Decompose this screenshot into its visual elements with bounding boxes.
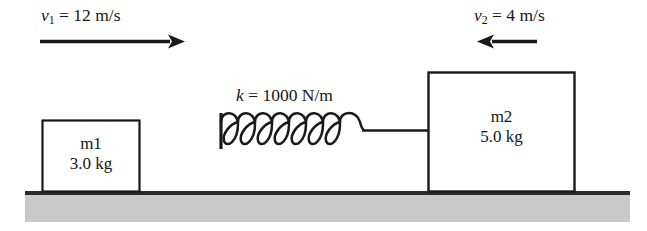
spring-loop-3 <box>255 113 272 144</box>
spring-constant-units: N/m <box>302 85 333 105</box>
spring-coils <box>221 113 364 144</box>
ground-fill <box>25 194 630 222</box>
velocity-2-equals: = <box>492 5 502 25</box>
physics-diagram-canvas: v1 = 12 m/s v2 = 4 m/s k = 1000 N/m m1 3… <box>0 0 647 231</box>
spring-constant-symbol: k <box>236 85 244 105</box>
block-1-symbol: m <box>80 134 93 153</box>
ground-surface <box>25 191 630 222</box>
velocity-arrow-right-head <box>168 35 185 49</box>
block-2-subscript: 2 <box>504 107 513 126</box>
velocity-arrow-left <box>477 35 537 49</box>
velocity-2-units: m/s <box>519 5 544 25</box>
velocity-2-label: v2 = 4 m/s <box>474 6 545 27</box>
velocity-1-symbol: v <box>41 5 49 25</box>
block-1-symbol-line: m1 <box>42 134 140 154</box>
velocity-2-value: 4 <box>506 5 515 25</box>
spring-assembly <box>221 113 429 149</box>
velocity-2-symbol: v <box>474 5 482 25</box>
spring-loop-6 <box>306 113 323 144</box>
spring-tail-arc <box>340 113 364 130</box>
spring-loop-2 <box>238 113 255 144</box>
velocity-arrow-left-head <box>477 35 494 49</box>
velocity-1-units: m/s <box>95 5 120 25</box>
spring-constant-label: k = 1000 N/m <box>236 86 333 105</box>
spring-constant-equals: = <box>248 85 258 105</box>
block-2-symbol-line: m2 <box>428 107 575 127</box>
velocity-1-subscript: 1 <box>49 13 55 27</box>
block-1-label: m1 3.0 kg <box>42 134 140 174</box>
block-2-mass: 5.0 kg <box>428 127 575 147</box>
spring-loop-7 <box>323 113 340 144</box>
spring-constant-value: 1000 <box>262 85 297 105</box>
velocity-2-subscript: 2 <box>482 13 488 27</box>
velocity-1-value: 12 <box>73 5 91 25</box>
spring-loop-4 <box>272 113 289 144</box>
spring-loop-1 <box>221 113 238 144</box>
block-2-label: m2 5.0 kg <box>428 107 575 147</box>
block-2-symbol: m <box>491 107 504 126</box>
velocity-1-label: v1 = 12 m/s <box>41 6 121 27</box>
block-1-subscript: 1 <box>93 134 102 153</box>
velocity-arrow-right <box>40 35 185 49</box>
spring-loop-5 <box>289 113 306 144</box>
block-1-mass: 3.0 kg <box>42 154 140 174</box>
velocity-1-equals: = <box>59 5 69 25</box>
